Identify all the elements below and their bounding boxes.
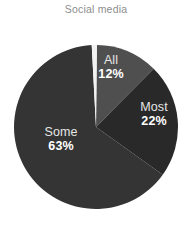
- pie-chart-graphic: All 12% Most 22% Some 63%: [0, 0, 192, 231]
- pie-svg: [0, 0, 192, 231]
- pie-chart-figure: Social media All 12% Most 22% Some 63%: [0, 0, 192, 231]
